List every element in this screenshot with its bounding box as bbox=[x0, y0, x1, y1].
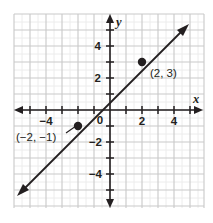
x-axis-letter-label: x bbox=[192, 92, 199, 106]
point-label-2-3: (2, 3) bbox=[150, 67, 177, 79]
axis-label-y-pos2: 2 bbox=[95, 72, 101, 84]
coordinate-plane-figure: 0 −4 2 4 2 4 −2 −4 y x (2, 3) (−2, −1) bbox=[0, 0, 213, 223]
point-label-neg2-neg1: (−2, −1) bbox=[16, 131, 56, 143]
point-marker-neg2-neg1 bbox=[74, 122, 82, 130]
axis-label-y-pos4: 4 bbox=[95, 40, 102, 52]
grid-plot-area bbox=[14, 14, 204, 208]
axis-label-x-pos4: 4 bbox=[171, 115, 178, 127]
axis-label-y-neg4: −4 bbox=[89, 168, 103, 180]
axis-label-x-pos2: 2 bbox=[139, 115, 145, 127]
y-axis-letter-label: y bbox=[114, 15, 122, 29]
point-marker-2-3 bbox=[138, 58, 146, 66]
axis-label-origin: 0 bbox=[97, 114, 103, 126]
axis-label-x-neg4: −4 bbox=[39, 115, 53, 127]
axis-label-y-neg2: −2 bbox=[89, 136, 102, 148]
grid-background bbox=[14, 14, 204, 208]
coordinate-plane-svg: 0 −4 2 4 2 4 −2 −4 y x (2, 3) (−2, −1) bbox=[0, 0, 213, 223]
